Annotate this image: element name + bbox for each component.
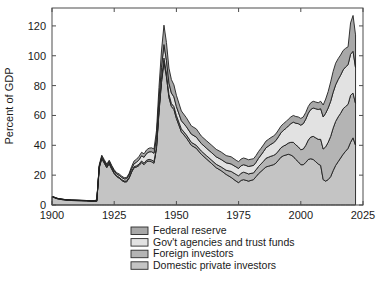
figure-container: 190019251950197520002025 020406080100120…	[0, 0, 389, 282]
x-tick-label: 1950	[164, 209, 188, 221]
x-tick-label: 2025	[351, 209, 375, 221]
y-tick-label: 80	[34, 80, 46, 92]
y-tick-label: 40	[34, 139, 46, 151]
y-tick-label: 120	[28, 20, 46, 32]
x-tick-label: 2000	[289, 209, 313, 221]
y-tick-label: 60	[34, 109, 46, 121]
legend-swatch-0	[131, 227, 148, 235]
y-tick-label: 0	[40, 199, 46, 211]
legend-swatch-3	[131, 262, 148, 270]
legend-label-0: Federal reserve	[153, 224, 227, 236]
y-tick-label: 20	[34, 169, 46, 181]
legend-label-3: Domestic private investors	[153, 259, 276, 271]
x-tick-label: 1925	[102, 209, 126, 221]
x-tick-label: 1975	[226, 209, 250, 221]
legend-swatch-2	[131, 250, 148, 258]
legend-label-2: Foreign investors	[153, 247, 234, 259]
legend-label-1: Gov't agencies and trust funds	[153, 236, 295, 248]
y-axis-title: Percent of GDP	[3, 67, 15, 144]
stacked-area-chart: 190019251950197520002025 020406080100120…	[0, 0, 389, 282]
legend-swatch-1	[131, 239, 148, 247]
y-tick-label: 100	[28, 50, 46, 62]
